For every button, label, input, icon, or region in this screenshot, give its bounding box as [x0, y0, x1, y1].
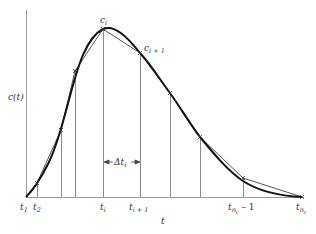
- tick-label-ti: ti: [100, 202, 106, 214]
- tick-label-t1: t1: [20, 202, 28, 214]
- tick-label-tnc-minus-1: tnc – 1: [228, 202, 255, 215]
- tick-label-tnc: tnc: [296, 202, 307, 215]
- point-label-ci: ci: [100, 15, 107, 27]
- x-axis-label: t: [161, 216, 165, 226]
- delta-t-label: Δti: [113, 157, 126, 169]
- tick-label-ti1: ti + 1: [129, 202, 148, 214]
- tick-label-t2: t2: [33, 202, 41, 214]
- point-label-ci1: ci + 1: [144, 43, 165, 55]
- y-axis-label: c(t): [8, 92, 24, 102]
- concentration-curve-diagram: Δti ci ci + 1 c(t) t t1 t2 ti ti + 1 tnc…: [0, 0, 316, 234]
